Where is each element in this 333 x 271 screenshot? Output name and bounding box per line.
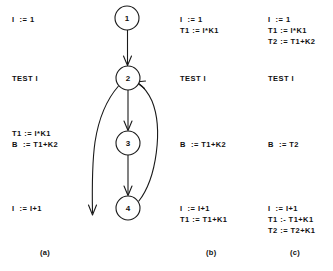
flowgraph: 1 2 3 4 [0,0,333,271]
node-1-label: 1 [125,14,130,23]
edge-node2-to-node3 [124,90,132,131]
node-1: 1 [115,6,139,30]
node-3: 3 [116,131,140,155]
edge-node3-to-node4 [124,155,132,196]
node-3-label: 3 [126,139,131,148]
node-4: 4 [116,196,140,220]
figure-root: I := 1 TEST I T1 := I*K1 B := T1+K2 I :=… [0,0,333,271]
node-2: 2 [116,66,140,90]
edge-node1-to-node2 [124,30,132,66]
node-2-label: 2 [126,74,131,83]
edge-node2-to-exit [89,86,119,215]
node-4-label: 4 [126,204,131,213]
